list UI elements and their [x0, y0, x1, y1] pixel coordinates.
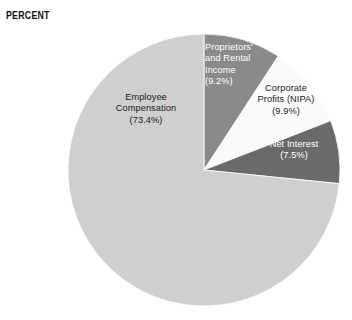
pie-chart: PERCENT Employee Compensation (73.4%) Pr… [0, 0, 352, 320]
slice-label-net-interest: Net Interest (7.5%) [250, 139, 338, 162]
pie-slices [68, 34, 340, 306]
slice-label-proprietors-rental-income: Proprietors' and Rental Income (9.2%) [205, 42, 269, 88]
slice-label-employee-compensation: Employee Compensation (73.4%) [92, 92, 200, 126]
slice-label-corporate-profits: Corporate Profits (NIPA) (9.9%) [240, 83, 332, 117]
